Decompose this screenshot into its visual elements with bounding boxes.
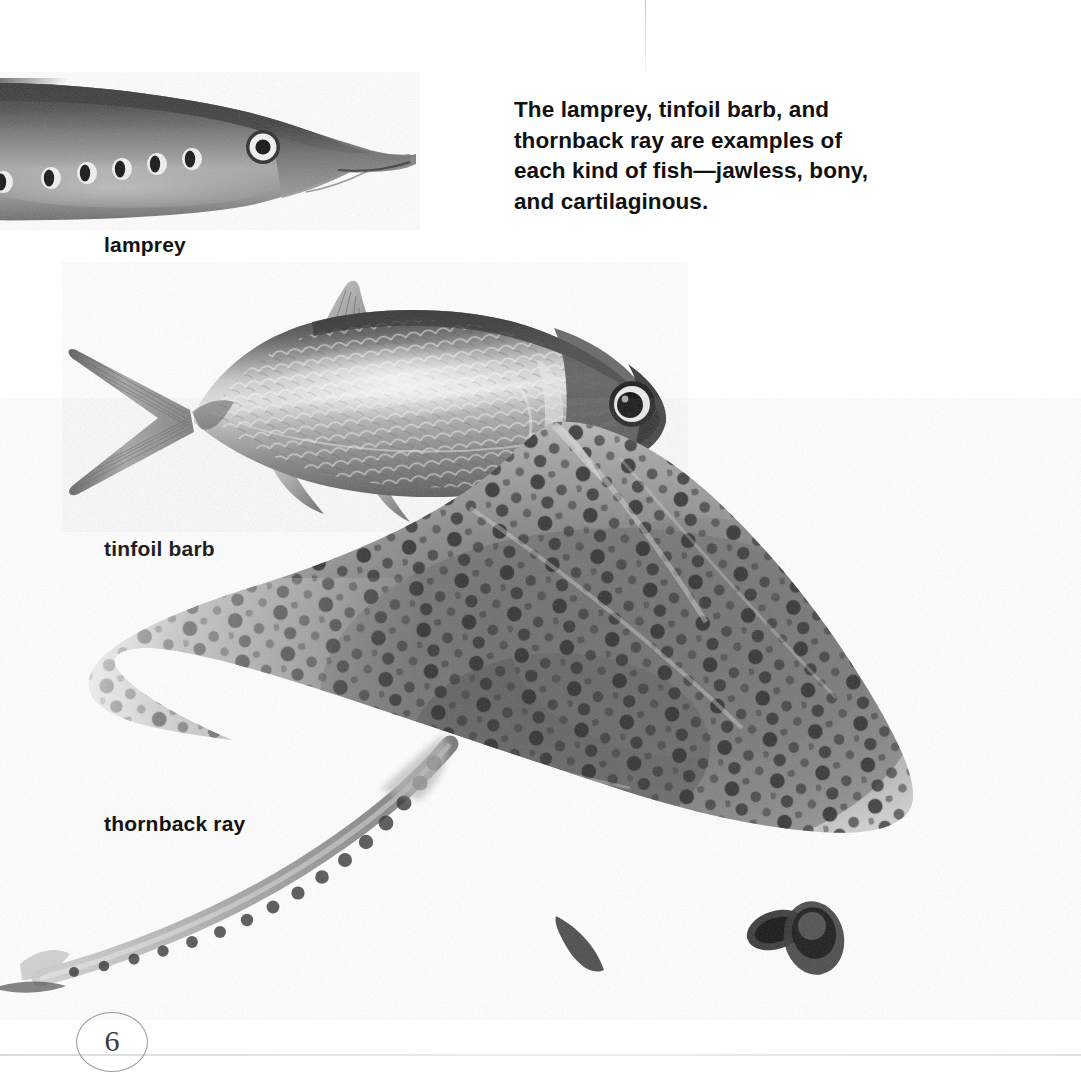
figure-thornback-ray-photo <box>0 398 1081 1020</box>
book-page: lamprey <box>0 0 1081 1072</box>
page-caption: The lamprey, tinfoil barb, and thornback… <box>514 95 874 217</box>
scan-artifact-bottom-rule <box>0 1054 1081 1056</box>
scan-artifact-vertical-line <box>645 0 646 78</box>
figure-label-lamprey: lamprey <box>104 233 186 257</box>
figure-label-thornback-ray: thornback ray <box>104 812 245 836</box>
page-number-text: 6 <box>76 1012 148 1072</box>
figure-lamprey-photo <box>0 72 420 230</box>
page-number: 6 <box>76 1012 148 1072</box>
